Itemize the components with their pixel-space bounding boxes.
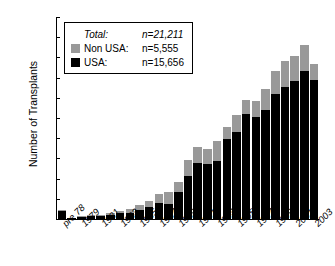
legend-row: Non USA:n=5,555 xyxy=(71,41,186,55)
bar-column xyxy=(193,17,203,219)
bar-column xyxy=(232,17,242,219)
bar-column xyxy=(241,17,251,219)
legend-label: Total: xyxy=(84,29,142,40)
bar-column xyxy=(280,17,290,219)
bar-column xyxy=(212,17,222,219)
bar-segment-non-usa xyxy=(193,147,202,163)
legend-value: n=15,656 xyxy=(142,57,184,68)
bar-segment-usa xyxy=(310,80,319,219)
bar-segment-non-usa xyxy=(164,192,173,204)
legend-swatch-blank xyxy=(71,30,80,39)
y-axis-title: Number of Transplants xyxy=(27,29,39,199)
bar-column xyxy=(309,17,319,219)
bar-segment-non-usa xyxy=(310,64,319,80)
legend-label: Non USA: xyxy=(84,43,142,54)
legend-swatch-grey xyxy=(71,44,80,53)
legend-swatch-black xyxy=(71,58,80,67)
bar-column xyxy=(270,17,280,219)
bar-segment-usa xyxy=(261,110,270,219)
bar-segment-usa xyxy=(271,94,280,219)
x-axis-tick-labels: pre 781979198119831985198719891991199319… xyxy=(56,221,318,266)
bar-segment-usa xyxy=(281,87,290,219)
legend-value: n=21,211 xyxy=(142,29,183,40)
chart-legend: Total:n=21,211Non USA:n=5,555USA:n=15,65… xyxy=(64,22,193,74)
legend-label: USA: xyxy=(84,57,142,68)
bar-segment-non-usa xyxy=(261,89,270,110)
bar-segment-non-usa xyxy=(213,141,222,161)
bar-segment-usa xyxy=(290,81,299,219)
bar-column xyxy=(261,17,271,219)
bar-segment-non-usa xyxy=(242,100,251,114)
bar-segment-non-usa xyxy=(232,115,241,132)
bar-segment-non-usa xyxy=(300,45,309,71)
bar-segment-usa xyxy=(232,132,241,219)
legend-value: n=5,555 xyxy=(142,43,178,54)
bar-segment-non-usa xyxy=(271,71,280,94)
bar-segment-usa xyxy=(242,114,251,219)
bar-segment-usa xyxy=(300,71,309,219)
legend-row: USA:n=15,656 xyxy=(71,55,186,69)
bar-column xyxy=(300,17,310,219)
legend-row: Total:n=21,211 xyxy=(71,27,186,41)
bar-column xyxy=(290,17,300,219)
bar-segment-non-usa xyxy=(290,56,299,81)
bar-segment-non-usa xyxy=(223,127,232,140)
bar-segment-non-usa xyxy=(281,61,290,86)
bar-segment-non-usa xyxy=(252,101,261,117)
bar-segment-non-usa xyxy=(155,194,164,203)
bar-segment-non-usa xyxy=(174,182,183,193)
bar-segment-non-usa xyxy=(184,160,193,176)
bar-column xyxy=(203,17,213,219)
bar-column xyxy=(251,17,261,219)
bar-column xyxy=(222,17,232,219)
bar-segment-non-usa xyxy=(203,149,212,164)
bar-segment-usa xyxy=(252,117,261,219)
